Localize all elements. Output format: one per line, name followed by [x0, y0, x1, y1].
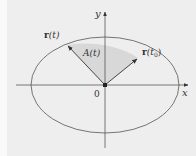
origin-point — [103, 83, 107, 87]
origin-label: 0 — [94, 89, 100, 99]
label-r-t: r(t) — [44, 30, 60, 40]
diagram-canvas: y x 0 r(t) A(t) r(t0) — [0, 0, 196, 156]
y-axis-label: y — [94, 8, 101, 19]
x-axis-label: x — [182, 87, 188, 98]
ellipse-area-diagram: y x 0 r(t) A(t) r(t0) — [0, 0, 196, 156]
label-r-t0: r(t0) — [142, 47, 161, 58]
label-area-a-t: A(t) — [82, 48, 101, 58]
shaded-sector-area — [67, 44, 138, 85]
